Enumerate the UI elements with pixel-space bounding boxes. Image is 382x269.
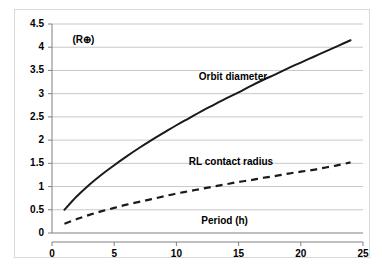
y-tick-label-2: 2 — [18, 135, 44, 145]
series-label-rl-contact-radius: RL contact radius — [189, 156, 273, 167]
y-tick-label-3.5: 3.5 — [18, 65, 44, 75]
x-tick-label-25: 25 — [351, 249, 375, 259]
y-tick-label-0.5: 0.5 — [18, 205, 44, 215]
x-tick-label-20: 20 — [289, 249, 313, 259]
x-tick-label-10: 10 — [164, 249, 188, 259]
y-tick-label-2.5: 2.5 — [18, 112, 44, 122]
y-tick-label-0: 0 — [18, 228, 44, 238]
y-tick-label-4.5: 4.5 — [18, 19, 44, 29]
y-tick-label-1.5: 1.5 — [18, 158, 44, 168]
series-label-orbit-diameter: Orbit diameter — [199, 71, 267, 82]
x-axis-title: Period (h) — [201, 215, 248, 226]
plot-canvas — [0, 0, 382, 269]
series-orbit-diameter-line — [64, 40, 350, 210]
y-tick-label-1: 1 — [18, 182, 44, 192]
x-tick-label-5: 5 — [102, 249, 126, 259]
y-tick-label-3: 3 — [18, 89, 44, 99]
x-tick-label-15: 15 — [227, 249, 251, 259]
y-tick-label-4: 4 — [18, 42, 44, 52]
chart-container: 00.511.522.533.544.5 0510152025 (R⊕) Orb… — [0, 0, 382, 269]
x-tick-marks-group — [48, 24, 363, 246]
x-tick-label-0: 0 — [40, 249, 64, 259]
y-axis-unit-label: (R⊕) — [72, 34, 94, 45]
